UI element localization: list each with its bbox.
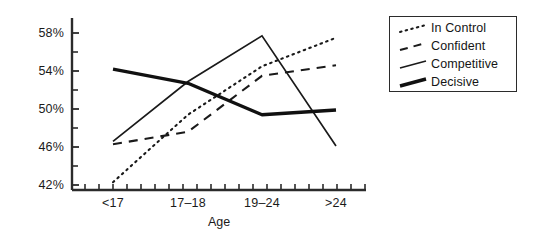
legend-label-in-control: In Control: [431, 21, 486, 35]
legend-item-competitive: Competitive: [398, 56, 514, 74]
x-axis-title: Age: [179, 215, 259, 229]
x-tick-label-1: 17–18: [153, 196, 223, 210]
x-tick-label-2: 19–24: [227, 196, 297, 210]
legend-label-decisive: Decisive: [431, 75, 479, 89]
x-axis-ticks: [85, 184, 365, 190]
y-tick-label-54: 54%: [18, 64, 64, 78]
chart-legend: In Control Confident Competitive Decisiv…: [389, 16, 517, 92]
legend-item-decisive: Decisive: [398, 74, 514, 92]
legend-swatch-dashed-icon: [398, 38, 428, 56]
legend-swatch-thin-solid-icon: [398, 56, 428, 74]
legend-item-in-control: In Control: [398, 20, 514, 38]
line-chart: 58% 54% 50% 46% 42% <17 17–18 19–24 >24 …: [0, 0, 534, 245]
legend-label-competitive: Competitive: [431, 57, 498, 71]
x-tick-label-0: <17: [78, 196, 148, 210]
legend-label-confident: Confident: [431, 39, 485, 53]
legend-swatch-dotted-icon: [398, 20, 428, 38]
legend-swatch-thick-solid-icon: [398, 74, 428, 92]
y-tick-label-50: 50%: [18, 102, 64, 116]
legend-item-confident: Confident: [398, 38, 514, 56]
y-tick-label-58: 58%: [18, 26, 64, 40]
x-tick-label-3: >24: [301, 196, 371, 210]
y-tick-label-46: 46%: [18, 140, 64, 154]
y-tick-label-42: 42%: [18, 178, 64, 192]
